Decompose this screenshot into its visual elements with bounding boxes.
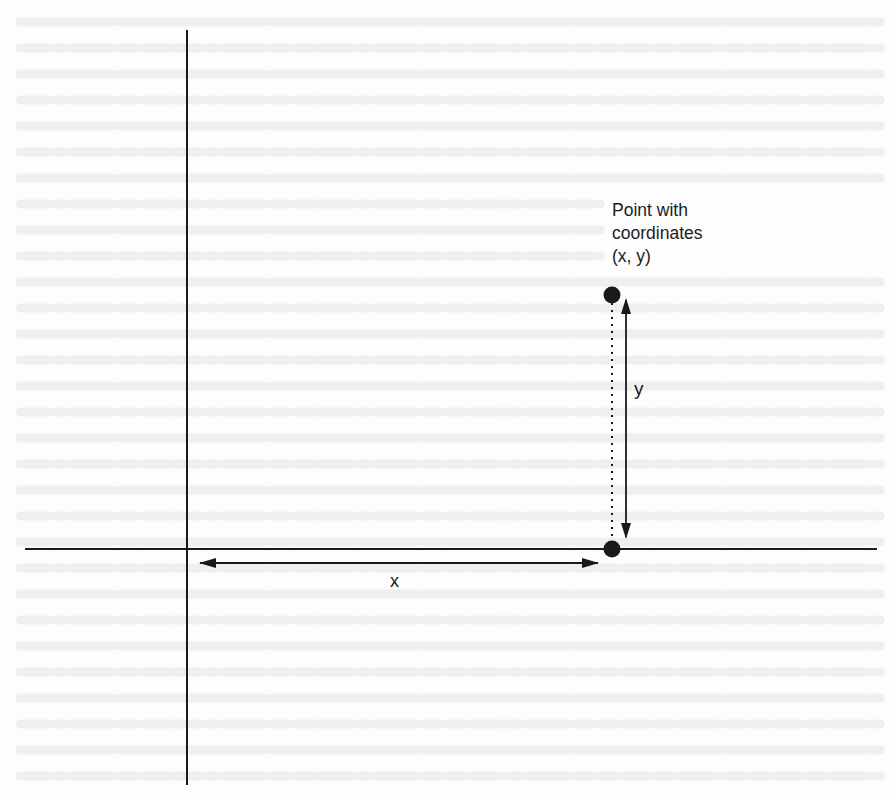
book-page: Point with coordinates (x, y) x y [0,0,895,800]
arrow-left-icon [199,558,216,568]
point-annotation-line-2: coordinates [612,222,702,245]
x-distance-arrow [199,558,599,568]
x-distance-label: x [390,571,399,592]
y-distance-label: y [634,378,644,400]
arrow-right-icon [582,558,599,568]
point-xy-marker [604,287,621,304]
arrow-up-icon [621,298,631,314]
point-x-axis-marker [604,541,621,558]
point-annotation: Point with coordinates (x, y) [612,199,702,268]
arrow-down-icon [621,523,631,539]
point-annotation-line-1: Point with [612,199,702,222]
y-distance-arrow [621,298,631,539]
point-annotation-line-3: (x, y) [612,245,702,268]
coordinate-diagram [0,0,895,800]
